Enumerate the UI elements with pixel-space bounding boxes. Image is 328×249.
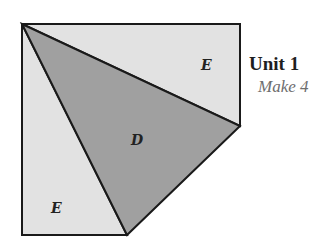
unit-subtitle: Make 4 — [258, 77, 309, 97]
label-d: D — [130, 132, 144, 148]
label-e-top: E — [200, 57, 212, 73]
unit-title: Unit 1 — [249, 53, 299, 75]
label-e-bottom: E — [50, 200, 62, 216]
quilt-unit-diagram: E D E — [0, 0, 328, 249]
